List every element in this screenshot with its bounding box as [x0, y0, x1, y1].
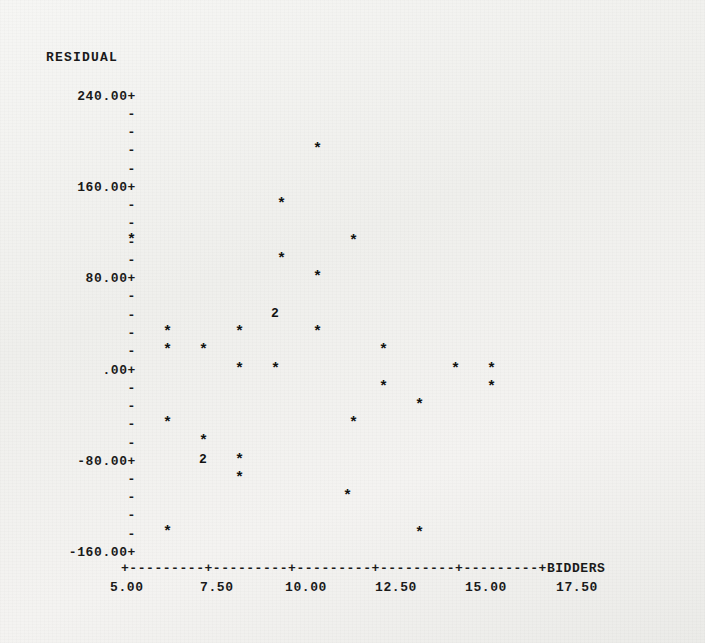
y-axis-minor-tick: -	[40, 472, 136, 487]
data-point-marker: *	[235, 471, 244, 486]
y-axis-minor-tick: -	[40, 381, 136, 396]
data-point-marker: *	[415, 526, 424, 541]
data-point-marker: *	[163, 343, 172, 358]
y-axis-tick-label: 80.00+	[40, 271, 136, 286]
overplot-count-marker: 2	[271, 307, 279, 320]
data-point-marker: *	[313, 270, 322, 285]
y-axis-minor-tick: -	[40, 216, 136, 231]
data-point-marker: *	[277, 252, 286, 267]
x-axis-tick-label: 7.50	[200, 580, 234, 595]
data-point-marker: *	[415, 398, 424, 413]
y-axis-tick-label: -80.00+	[40, 454, 136, 469]
data-point-marker: *	[349, 234, 358, 249]
data-point-marker: *	[379, 380, 388, 395]
data-point-marker: *	[451, 362, 460, 377]
y-axis-tick-label: -160.00+	[40, 545, 136, 560]
y-axis-title: RESIDUAL	[46, 50, 118, 65]
data-point-marker: *	[487, 380, 496, 395]
data-point-marker: *	[235, 362, 244, 377]
data-point-marker: *	[163, 416, 172, 431]
data-point-marker: *	[127, 233, 136, 248]
data-point-marker: *	[271, 362, 280, 377]
y-axis-minor-tick: -	[40, 235, 136, 250]
y-axis-minor-tick: -	[40, 308, 136, 323]
y-axis-minor-tick: -	[40, 326, 136, 341]
data-point-marker: *	[163, 325, 172, 340]
y-axis-minor-tick: -	[40, 436, 136, 451]
data-point-marker: *	[235, 325, 244, 340]
data-point-marker: *	[277, 197, 286, 212]
y-axis-minor-tick: -	[40, 107, 136, 122]
data-point-marker: *	[199, 343, 208, 358]
y-axis-minor-tick: -	[40, 143, 136, 158]
data-point-marker: *	[349, 416, 358, 431]
y-axis-minor-tick: -	[40, 344, 136, 359]
y-axis-minor-tick: -	[40, 417, 136, 432]
data-point-marker: *	[313, 142, 322, 157]
y-axis-minor-tick: -	[40, 508, 136, 523]
y-axis-minor-tick: -	[40, 253, 136, 268]
y-axis-minor-tick: -	[40, 289, 136, 304]
y-axis-minor-tick: -	[40, 527, 136, 542]
residual-scatter-plot: RESIDUAL 240.00+----160.00+----80.00+---…	[0, 0, 705, 643]
x-axis-line: +---------+---------+---------+---------…	[121, 561, 605, 576]
data-point-marker: *	[379, 343, 388, 358]
data-point-marker: *	[163, 525, 172, 540]
x-axis-tick-label: 5.00	[110, 580, 144, 595]
data-point-marker: *	[199, 434, 208, 449]
data-point-marker: *	[343, 489, 352, 504]
y-axis-minor-tick: -	[40, 399, 136, 414]
data-point-marker: *	[313, 325, 322, 340]
y-axis-minor-tick: -	[40, 198, 136, 213]
overplot-count-marker: 2	[199, 453, 207, 466]
y-axis-minor-tick: -	[40, 125, 136, 140]
y-axis-tick-label: 160.00+	[40, 180, 136, 195]
data-point-marker: *	[487, 362, 496, 377]
x-axis-tick-label: 15.00	[465, 580, 507, 595]
y-axis-minor-tick: -	[40, 490, 136, 505]
y-axis-tick-label: .00+	[40, 363, 136, 378]
x-axis-title: BIDDERS	[547, 561, 605, 576]
y-axis-minor-tick: -	[40, 162, 136, 177]
x-axis-tick-label: 17.50	[556, 580, 598, 595]
x-axis-tick-label: 10.00	[285, 580, 327, 595]
data-point-marker: *	[235, 453, 244, 468]
x-axis-tick-label: 12.50	[375, 580, 417, 595]
y-axis-tick-label: 240.00+	[40, 89, 136, 104]
